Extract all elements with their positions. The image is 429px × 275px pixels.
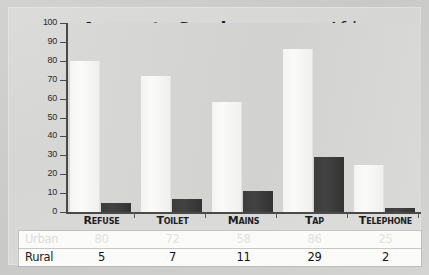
bar-urban: [354, 165, 384, 212]
table-cell: 86: [279, 232, 350, 246]
bar-urban: [212, 102, 242, 212]
row-label-rural: Rural: [25, 250, 53, 264]
y-axis-tick-label: 100: [43, 16, 57, 28]
category-label-telephone: Telephone: [350, 214, 421, 227]
chart-figure: Access to Services among Africans 100908…: [0, 0, 429, 275]
y-axis-tick-label: 40: [48, 129, 57, 141]
table-cell: 11: [208, 250, 279, 264]
y-axis-tick-label: 90: [48, 35, 57, 47]
bar-rural: [243, 191, 273, 212]
bar-urban: [283, 49, 313, 212]
bar-group: [208, 23, 279, 212]
category-label-refuse: Refuse: [66, 214, 137, 227]
table-cell: 80: [66, 232, 137, 246]
table-cell: 29: [279, 250, 350, 264]
plot-area: 1009080706050403020100: [66, 23, 421, 213]
table-row: Rural 5711292: [19, 248, 421, 266]
category-label-tap: Tap: [279, 214, 350, 227]
bar-rural: [385, 208, 415, 212]
y-axis-tick-label: 20: [48, 167, 57, 179]
bar-rural: [172, 199, 202, 212]
table-cell: 72: [137, 232, 208, 246]
category-label-toilet: Toilet: [137, 214, 208, 227]
bar-group: [279, 23, 350, 212]
bar-rural: [314, 157, 344, 212]
y-axis-tick-label: 10: [48, 186, 57, 198]
table-cell: 7: [137, 250, 208, 264]
row-label-urban: Urban: [25, 232, 58, 246]
table-cell: 5: [66, 250, 137, 264]
y-axis-tick-label: 30: [48, 148, 57, 160]
bar-group: [350, 23, 421, 212]
bar-urban: [141, 76, 171, 212]
table-cell: 2: [350, 250, 421, 264]
y-axis-tick-label: 50: [48, 111, 57, 123]
chart-paper: Access to Services among Africans 100908…: [8, 7, 421, 265]
data-table: Urban 8072588625 Rural 5711292: [19, 231, 421, 266]
y-axis-tick-label: 70: [48, 73, 57, 85]
y-axis-tick-label: 0: [52, 205, 57, 217]
bar-urban: [70, 61, 100, 212]
bar-rural: [101, 203, 131, 212]
table-row: Urban 8072588625: [19, 231, 421, 248]
table-cell: 25: [350, 232, 421, 246]
table-cell: 58: [208, 232, 279, 246]
category-label-mains: Mains: [208, 214, 279, 227]
y-axis-tick-label: 80: [48, 54, 57, 66]
bar-group: [66, 23, 137, 212]
bar-group: [137, 23, 208, 212]
y-axis-tick-label: 60: [48, 92, 57, 104]
y-axis-tick: 0: [60, 212, 66, 213]
category-labels: RefuseToiletMainsTapTelephone: [66, 214, 421, 230]
